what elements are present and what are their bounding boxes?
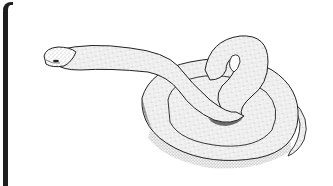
snake-eye xyxy=(53,60,59,62)
illustration-frame xyxy=(0,0,333,186)
snake-illustration xyxy=(0,0,333,186)
